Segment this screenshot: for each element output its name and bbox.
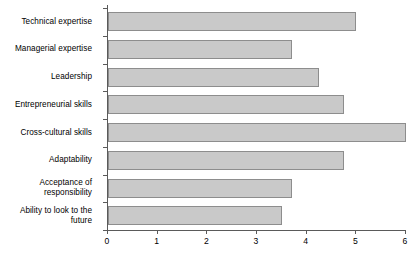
bar (108, 179, 292, 198)
category-label: Adaptability (0, 147, 99, 175)
x-axis-tick (355, 230, 356, 234)
x-axis-tick-label: 5 (343, 236, 367, 246)
bar-row (107, 175, 405, 203)
x-axis-tick-label: 0 (95, 236, 119, 246)
category-label: Ability to look to the future (0, 202, 99, 230)
bar (108, 95, 344, 114)
y-axis-tick (103, 119, 107, 120)
bar-row (107, 202, 405, 230)
x-axis-tick-label: 4 (294, 236, 318, 246)
bar-row (107, 91, 405, 119)
category-label: Cross-cultural skills (0, 119, 99, 147)
x-axis-tick (107, 230, 108, 234)
y-axis-tick (103, 8, 107, 9)
category-label: Managerial expertise (0, 36, 99, 64)
x-axis-tick (206, 230, 207, 234)
bar (108, 68, 319, 87)
bar-row (107, 147, 405, 175)
category-label: Entrepreneurial skills (0, 91, 99, 119)
bar (108, 123, 406, 142)
x-axis-tick-label: 1 (145, 236, 169, 246)
horizontal-bar-chart: Technical expertise Managerial expertise… (0, 0, 412, 266)
y-axis-tick (103, 91, 107, 92)
category-axis-labels: Technical expertise Managerial expertise… (0, 8, 99, 230)
category-label: Leadership (0, 64, 99, 92)
bar-row (107, 36, 405, 64)
y-axis-tick (103, 202, 107, 203)
x-axis-tick (405, 230, 406, 234)
y-axis-tick (103, 64, 107, 65)
bar (108, 206, 282, 225)
bar-row (107, 8, 405, 36)
y-axis-tick (103, 147, 107, 148)
category-label: Technical expertise (0, 8, 99, 36)
x-axis-tick-label: 3 (244, 236, 268, 246)
bar (108, 12, 356, 31)
bar-row (107, 64, 405, 92)
x-axis-tick (306, 230, 307, 234)
bar (108, 151, 344, 170)
x-axis-tick (157, 230, 158, 234)
y-axis-tick (103, 175, 107, 176)
bar-row (107, 119, 405, 147)
bar (108, 40, 292, 59)
y-axis-tick (103, 36, 107, 37)
category-label: Acceptance of responsibility (0, 175, 99, 203)
x-axis-tick-label: 2 (194, 236, 218, 246)
x-axis-tick (256, 230, 257, 234)
x-axis-tick-label: 6 (393, 236, 412, 246)
plot-area: 0123456 (107, 8, 405, 230)
